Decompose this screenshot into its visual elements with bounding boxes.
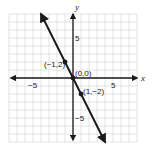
point-label-origin: (0,0): [75, 69, 92, 78]
y-axis-label: y: [74, 2, 79, 12]
x-axis-label: x: [140, 73, 145, 83]
coordinate-plane: x y −5 5 5 −5 (−1,2) (0,0) (1,−2): [0, 0, 156, 148]
x-tick-label-5: 5: [111, 81, 116, 90]
x-tick-label-neg5: −5: [28, 81, 38, 90]
y-tick-label-5: 5: [75, 34, 80, 43]
point-label-neg1-2: (−1,2): [44, 60, 65, 69]
point-label-1-neg2: (1,−2): [83, 87, 104, 96]
y-tick-label-neg5: −5: [75, 114, 85, 123]
